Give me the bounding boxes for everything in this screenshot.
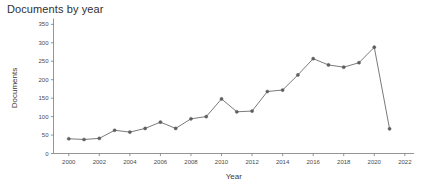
data-point-marker — [128, 131, 131, 134]
x-axis-title: Year — [226, 172, 243, 181]
data-point-marker — [174, 127, 177, 130]
y-axis-title: Documents — [10, 68, 19, 108]
x-tick-label: 2014 — [276, 159, 290, 165]
y-tick-label: 100 — [38, 114, 49, 120]
data-point-marker — [82, 138, 85, 141]
y-tick-label: 150 — [38, 95, 49, 101]
y-tick-label: 50 — [42, 132, 49, 138]
documents-by-year-chart: Documents by year 050100150200250300350 … — [0, 0, 421, 185]
data-point-marker — [189, 117, 192, 120]
x-tick-label: 2010 — [215, 159, 229, 165]
x-tick-label: 2002 — [93, 159, 107, 165]
x-axis: 2000200220042006200820102012201420162018… — [54, 154, 415, 165]
x-tick-label: 2004 — [123, 159, 137, 165]
y-axis: 050100150200250300350 — [38, 19, 53, 157]
data-point-marker — [296, 73, 299, 76]
y-tick-label: 250 — [38, 58, 49, 64]
x-tick-label: 2008 — [184, 159, 198, 165]
data-point-marker — [159, 121, 162, 124]
y-tick-label: 200 — [38, 77, 49, 83]
chart-plot-area: 050100150200250300350 200020022004200620… — [0, 0, 421, 185]
data-point-marker — [266, 90, 269, 93]
data-point-marker — [235, 110, 238, 113]
data-point-marker — [205, 115, 208, 118]
data-point-marker — [327, 63, 330, 66]
data-point-marker — [250, 109, 253, 112]
data-point-marker — [144, 127, 147, 130]
x-tick-label: 2022 — [398, 159, 412, 165]
data-series-documents — [67, 46, 391, 141]
y-tick-label: 350 — [38, 21, 49, 27]
x-tick-label: 2020 — [368, 159, 382, 165]
x-tick-label: 2000 — [62, 159, 76, 165]
data-point-marker — [357, 61, 360, 64]
data-point-marker — [281, 88, 284, 91]
data-point-marker — [342, 66, 345, 69]
x-tick-label: 2006 — [154, 159, 168, 165]
y-tick-label: 0 — [45, 151, 49, 157]
x-tick-label: 2012 — [245, 159, 259, 165]
data-point-marker — [113, 129, 116, 132]
x-tick-label: 2018 — [337, 159, 351, 165]
y-tick-label: 300 — [38, 40, 49, 46]
data-point-marker — [220, 97, 223, 100]
data-point-marker — [312, 57, 315, 60]
data-point-marker — [373, 46, 376, 49]
data-point-marker — [388, 127, 391, 130]
data-point-marker — [98, 137, 101, 140]
x-tick-label: 2016 — [307, 159, 321, 165]
series-line-documents — [69, 47, 390, 139]
data-point-marker — [67, 137, 70, 140]
